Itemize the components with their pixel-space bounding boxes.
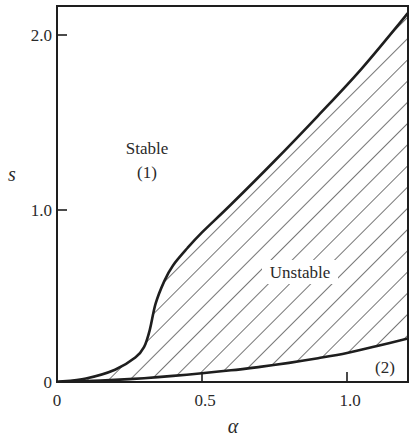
region-2-label: (2) [375,358,395,377]
unstable-region-label: Unstable [270,263,330,282]
stable-region-label: Stable [126,139,169,158]
y-tick-label-2: 2.0 [31,26,52,45]
stable-region-number: (1) [137,163,157,182]
x-tick-label-05: 0.5 [194,391,215,410]
x-axis-label: α [228,415,239,437]
stability-chart: 2.0 1.0 0 0 0.5 1.0 α s Stable (1) Unsta… [0,0,414,441]
unstable-region [57,13,408,382]
x-tick-label-10: 1.0 [339,391,360,410]
y-tick-label-0: 0 [44,373,53,392]
x-tick-label-0: 0 [53,391,62,410]
y-tick-label-1: 1.0 [31,201,52,220]
y-axis-label: s [8,163,16,185]
